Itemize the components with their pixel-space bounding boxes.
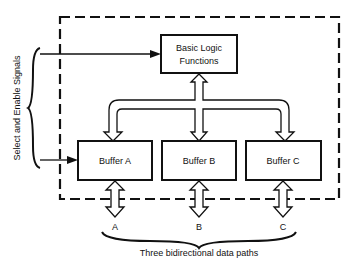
internal-bus: [104, 74, 294, 141]
buffer-a: Buffer A: [78, 141, 152, 180]
signal-arrow-to-logic: [40, 50, 161, 58]
logic-block-line1: Basic Logic: [176, 43, 223, 53]
left-brace: [28, 48, 40, 168]
logic-block: Basic Logic Functions: [161, 35, 237, 73]
path-label-a: A: [112, 222, 118, 232]
path-label-b: B: [196, 222, 202, 232]
buffer-b: Buffer B: [162, 141, 236, 180]
buffer-b-label: Buffer B: [183, 156, 215, 166]
side-label: Select and Enable Signals: [12, 55, 22, 161]
bottom-brace: [102, 232, 296, 248]
buffer-c: Buffer C: [246, 141, 321, 180]
diagram-canvas: Basic Logic Functions Buffer A Buffer B …: [0, 0, 350, 262]
buffer-a-label: Buffer A: [99, 156, 131, 166]
bottom-caption: Three bidirectional data paths: [140, 248, 259, 258]
logic-block-line2: Functions: [179, 56, 219, 66]
buffer-c-label: Buffer C: [267, 156, 300, 166]
path-label-c: C: [280, 222, 287, 232]
